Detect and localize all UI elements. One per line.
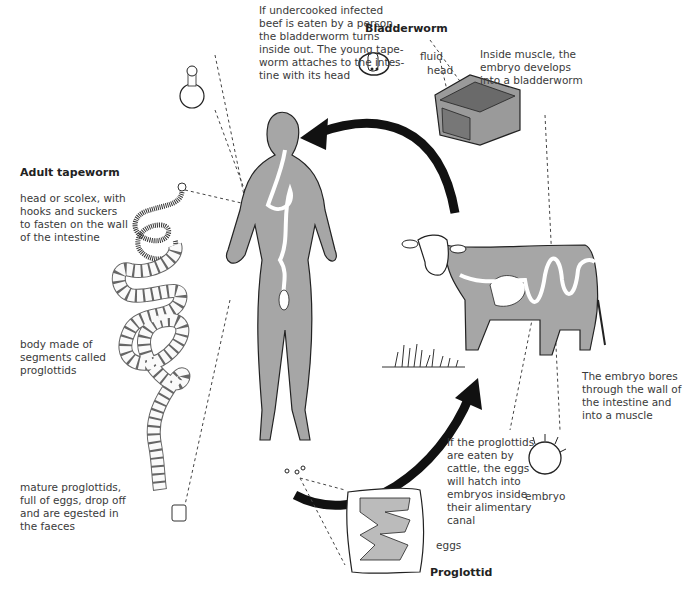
adult-tapeworm: [119, 183, 186, 521]
label-embryo-bores: The embryo bores through the wall of the…: [582, 370, 681, 422]
everted-bladderworm: [180, 66, 204, 108]
label-body-segments: body made of segments called proglottids: [20, 338, 106, 377]
heading-adult-tapeworm: Adult tapeworm: [20, 166, 120, 179]
human-host: [226, 112, 336, 440]
label-embryo: embryo: [525, 490, 565, 503]
label-eggs: eggs: [436, 539, 461, 552]
cow: [402, 235, 605, 355]
embryo: [529, 434, 566, 474]
label-human-infection: If undercooked infected beef is eaten by…: [259, 4, 404, 82]
label-cattle-eat: If the proglottids are eaten by cattle, …: [447, 436, 534, 527]
label-head: head: [427, 64, 453, 77]
label-inside-muscle: Inside muscle, the embryo develops into …: [480, 48, 583, 87]
heading-bladderworm: Bladderworm: [365, 22, 448, 35]
label-fluid: fluid: [420, 50, 443, 63]
label-scolex: head or scolex, with hooks and suckers t…: [20, 192, 128, 244]
grass: [382, 344, 465, 367]
label-mature-proglottids: mature proglottids, full of eggs, drop o…: [20, 481, 126, 533]
heading-proglottid: Proglottid: [430, 566, 492, 579]
